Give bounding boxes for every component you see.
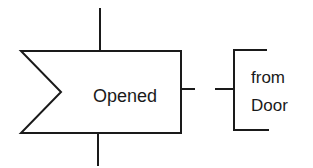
comment-bracket (234, 50, 269, 130)
comment-line-2: Door (251, 96, 288, 115)
input-signal-label: Opened (93, 86, 157, 106)
comment-line-1: from (251, 68, 285, 87)
sdl-diagram: Opened from Door (0, 0, 313, 168)
